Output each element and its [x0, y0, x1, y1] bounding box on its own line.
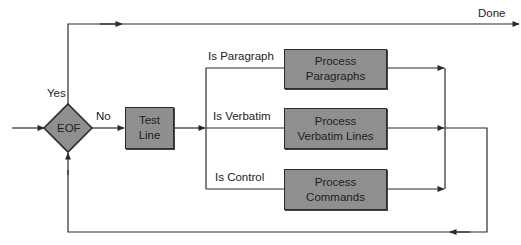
- node-process-paragraphs-line1: Process: [315, 54, 357, 69]
- node-process-commands-line1: Process: [315, 175, 357, 190]
- branch-control-label: Is Control: [215, 172, 264, 184]
- branch-paragraph-label: Is Paragraph: [208, 51, 274, 63]
- branch-verbatim-label: Is Verbatim: [213, 111, 271, 123]
- no-label: No: [96, 111, 111, 123]
- node-process-verbatim-line2: Verbatim Lines: [297, 129, 373, 144]
- yes-label: Yes: [47, 88, 66, 100]
- node-test-line-line2: Line: [139, 128, 161, 143]
- done-label: Done: [478, 8, 506, 20]
- node-process-paragraphs: Process Paragraphs: [284, 49, 387, 89]
- decision-eof-label: EOF: [57, 123, 81, 135]
- node-process-commands: Process Commands: [284, 169, 387, 210]
- node-process-verbatim: Process Verbatim Lines: [284, 108, 387, 149]
- node-test-line-line1: Test: [139, 113, 160, 128]
- node-process-verbatim-line1: Process: [315, 114, 357, 129]
- node-process-paragraphs-line2: Paragraphs: [306, 69, 365, 84]
- node-test-line: Test Line: [125, 107, 174, 149]
- node-process-commands-line2: Commands: [306, 190, 365, 205]
